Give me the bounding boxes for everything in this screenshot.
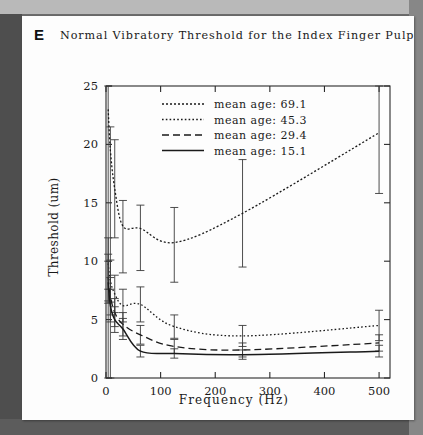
plot-area: Threshold (um) Frequency (Hz) 0100200300…: [22, 60, 414, 420]
error-bars-1: [104, 238, 383, 347]
y-tick-label: 20: [83, 137, 98, 151]
page-background-bottom-edge: [0, 419, 423, 435]
chart-legend: mean age: 69.1mean age: 45.3mean age: 29…: [162, 98, 307, 158]
vibratory-threshold-chart: 01002003004005000510152025mean age: 69.1…: [22, 60, 414, 420]
y-tick-label: 5: [91, 313, 98, 327]
legend-label: mean age: 15.1: [214, 145, 307, 158]
series-1: [104, 238, 383, 347]
x-tick-label: 100: [150, 384, 172, 398]
y-tick-label: 15: [83, 196, 98, 210]
panel-label: E: [34, 26, 44, 43]
y-tick-label: 10: [83, 254, 98, 268]
x-tick-label: 0: [102, 384, 109, 398]
data-line: [108, 278, 379, 351]
x-tick-label: 400: [313, 384, 335, 398]
legend-label: mean age: 29.4: [214, 129, 307, 142]
legend-label: mean age: 45.3: [214, 114, 307, 127]
x-tick-label: 300: [259, 384, 281, 398]
error-bars-3: [104, 261, 383, 359]
y-tick-label: 0: [91, 371, 98, 385]
series-2: [104, 254, 383, 357]
error-bars-2: [104, 254, 383, 357]
x-tick-label: 500: [368, 384, 390, 398]
page-background-left-edge: [0, 14, 22, 421]
figure-title: Normal Vibratory Threshold for the Index…: [60, 29, 410, 42]
figure-sheet: E Normal Vibratory Threshold for the Ind…: [22, 16, 414, 420]
page-background-top: [0, 0, 423, 14]
y-tick-label: 25: [83, 79, 98, 93]
data-line: [108, 282, 379, 355]
legend-label: mean age: 69.1: [214, 98, 307, 111]
x-tick-label: 200: [204, 384, 226, 398]
series-3: [104, 261, 383, 359]
scanned-page: E Normal Vibratory Threshold for the Ind…: [0, 0, 423, 435]
